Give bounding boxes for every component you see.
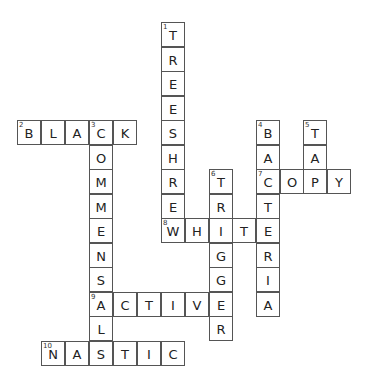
crossword-cell[interactable]: I — [209, 218, 233, 243]
crossword-cell[interactable]: O — [280, 169, 304, 194]
crossword-cell[interactable]: E — [161, 96, 185, 121]
cell-letter: I — [210, 224, 232, 239]
crossword-cell[interactable]: Y — [327, 169, 351, 194]
crossword-cell[interactable]: 6T — [209, 169, 233, 194]
cell-letter: R — [257, 249, 279, 264]
cell-letter: B — [257, 126, 279, 141]
crossword-cell[interactable]: E — [209, 292, 233, 317]
crossword-cell[interactable]: A — [65, 120, 89, 145]
cell-letter: H — [162, 151, 184, 166]
crossword-cell[interactable]: 10N — [41, 341, 65, 366]
cell-letter: B — [18, 126, 40, 141]
cell-letter: R — [210, 200, 232, 215]
crossword-cell[interactable]: C — [161, 341, 185, 366]
crossword-cell[interactable]: T — [256, 194, 280, 219]
cell-letter: C — [90, 126, 112, 141]
cell-letter: A — [90, 298, 112, 313]
cell-letter: N — [42, 347, 64, 362]
crossword-cell[interactable]: H — [185, 218, 209, 243]
crossword-cell[interactable]: V — [185, 292, 209, 317]
crossword-cell[interactable]: I — [137, 341, 161, 366]
cell-letter: O — [281, 175, 303, 190]
crossword-cell[interactable]: 9A — [89, 292, 113, 317]
crossword-cell[interactable]: E — [161, 194, 185, 219]
cell-letter: L — [90, 322, 112, 337]
cell-letter: G — [210, 273, 232, 288]
cell-letter: T — [304, 126, 326, 141]
cell-letter: I — [162, 298, 184, 313]
crossword-cell[interactable]: E — [161, 71, 185, 96]
crossword-cell[interactable]: I — [161, 292, 185, 317]
cell-letter: S — [90, 347, 112, 362]
cell-letter: A — [257, 298, 279, 313]
cell-letter: M — [90, 200, 112, 215]
crossword-cell[interactable]: R — [256, 243, 280, 268]
cell-letter: E — [257, 224, 279, 239]
cell-letter: N — [90, 249, 112, 264]
cell-letter: T — [114, 347, 136, 362]
crossword-cell[interactable]: E — [89, 218, 113, 243]
crossword-cell[interactable]: P — [303, 169, 327, 194]
crossword-cell[interactable]: R — [161, 169, 185, 194]
cell-letter: E — [162, 77, 184, 92]
cell-letter: A — [66, 347, 88, 362]
crossword-cell[interactable]: G — [209, 267, 233, 292]
cell-letter: T — [210, 175, 232, 190]
crossword-cell[interactable]: K — [113, 120, 137, 145]
cell-letter: M — [90, 175, 112, 190]
crossword-cell[interactable]: S — [161, 120, 185, 145]
cell-letter: R — [162, 53, 184, 68]
crossword-cell[interactable]: M — [89, 194, 113, 219]
crossword-cell[interactable]: L — [89, 316, 113, 341]
cell-letter: E — [162, 102, 184, 117]
crossword-cell[interactable]: T — [137, 292, 161, 317]
crossword-cell[interactable]: L — [41, 120, 65, 145]
crossword-cell[interactable]: A — [256, 292, 280, 317]
crossword-cell[interactable]: 2B — [17, 120, 41, 145]
crossword-cell[interactable]: E — [256, 218, 280, 243]
crossword-cell[interactable]: R — [209, 316, 233, 341]
crossword-cell[interactable]: S — [89, 267, 113, 292]
cell-letter: A — [304, 151, 326, 166]
cell-letter: S — [162, 126, 184, 141]
crossword-cell[interactable]: A — [256, 145, 280, 170]
cell-letter: S — [90, 273, 112, 288]
crossword-cell[interactable]: I — [256, 267, 280, 292]
crossword-cell[interactable]: H — [161, 145, 185, 170]
crossword-cell[interactable]: T — [232, 218, 256, 243]
crossword-cell[interactable]: C — [113, 292, 137, 317]
crossword-cell[interactable]: S — [89, 341, 113, 366]
cell-letter: T — [233, 224, 255, 239]
cell-letter: T — [257, 200, 279, 215]
crossword-cell[interactable]: M — [89, 169, 113, 194]
cell-letter: R — [210, 322, 232, 337]
cell-letter: C — [162, 347, 184, 362]
crossword-cell[interactable]: A — [65, 341, 89, 366]
crossword-cell[interactable]: R — [209, 194, 233, 219]
cell-letter: E — [210, 298, 232, 313]
crossword-cell[interactable]: A — [303, 145, 327, 170]
cell-letter: E — [162, 200, 184, 215]
crossword-cell[interactable]: R — [161, 47, 185, 72]
crossword-cell[interactable]: 3C — [89, 120, 113, 145]
cell-letter: I — [138, 347, 160, 362]
crossword-cell[interactable]: N — [89, 243, 113, 268]
crossword-cell[interactable]: 4B — [256, 120, 280, 145]
cell-letter: A — [66, 126, 88, 141]
crossword-cell[interactable]: O — [89, 145, 113, 170]
cell-letter: Y — [328, 175, 350, 190]
crossword-cell[interactable]: 8W — [161, 218, 185, 243]
cell-letter: E — [90, 224, 112, 239]
crossword-cell[interactable]: 5T — [303, 120, 327, 145]
crossword-cell[interactable]: T — [113, 341, 137, 366]
cell-letter: W — [162, 224, 184, 239]
cell-letter: I — [257, 273, 279, 288]
cell-letter: P — [304, 175, 326, 190]
cell-letter: V — [186, 298, 208, 313]
crossword-cell[interactable]: G — [209, 243, 233, 268]
crossword-cell[interactable]: 7C — [256, 169, 280, 194]
crossword-cell[interactable]: 1T — [161, 22, 185, 47]
cell-letter: T — [162, 28, 184, 43]
cell-letter: C — [257, 175, 279, 190]
cell-letter: K — [114, 126, 136, 141]
